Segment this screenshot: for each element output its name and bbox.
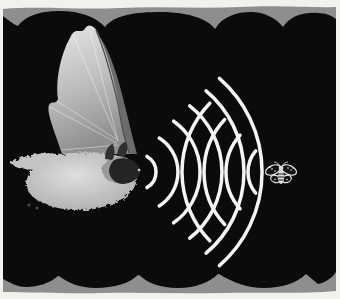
moth-head: [279, 166, 284, 171]
bat-foot: [35, 206, 38, 209]
bat-foot: [27, 203, 30, 206]
bat-nose: [138, 169, 141, 172]
echolocation-scene: [0, 0, 340, 299]
figure-canvas: [0, 0, 340, 299]
bat-wing-tip-claw: [10, 161, 12, 163]
